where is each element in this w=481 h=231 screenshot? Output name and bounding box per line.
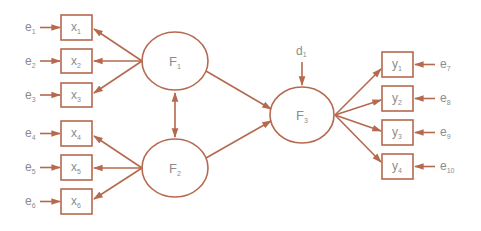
error-e3: e3: [25, 88, 36, 103]
svg-text:F1: F1: [169, 54, 181, 70]
error-e6: e6: [25, 194, 36, 209]
factor-f2: F2: [142, 139, 208, 197]
indicator-x2: x2 e2: [25, 49, 142, 73]
error-e9: e9: [440, 125, 451, 140]
svg-text:F3: F3: [296, 108, 308, 124]
error-e5: e5: [25, 160, 36, 175]
svg-text:F2: F2: [169, 161, 181, 177]
error-e10: e10: [440, 159, 455, 174]
factor-f1: F1: [142, 32, 208, 90]
error-e1: e1: [25, 20, 36, 35]
indicator-x5: x5 e5: [25, 155, 142, 180]
disturbance-d1: d1: [296, 44, 307, 85]
error-e8: e8: [440, 91, 451, 106]
indicator-y2: y2 e8: [335, 86, 451, 115]
svg-text:d1: d1: [296, 44, 307, 58]
error-e7: e7: [440, 57, 451, 72]
path-arrow-f2-f3: [206, 121, 271, 158]
error-e4: e4: [25, 126, 36, 141]
sem-diagram: F1 F2 F3 d1 x1 e1 x2 e2 x3 e3: [0, 0, 481, 231]
path-arrow-f1-f3: [206, 71, 271, 109]
indicator-y3: y3 e9: [335, 115, 451, 145]
error-e2: e2: [25, 54, 36, 69]
factor-f3: F3: [270, 87, 334, 143]
